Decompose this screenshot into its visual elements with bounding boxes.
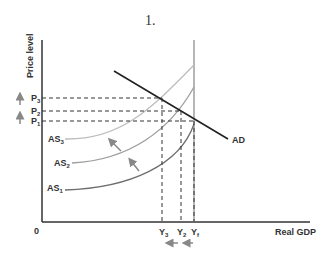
as3-curve — [65, 65, 194, 139]
origin-label: 0 — [34, 226, 39, 236]
as3-label: AS3 — [48, 134, 65, 145]
figure-number: 1. — [145, 13, 156, 28]
as1-curve — [65, 124, 194, 190]
as2-label: AS2 — [54, 158, 71, 169]
ad-line — [114, 71, 228, 139]
output-label-y2: Y2 — [177, 227, 187, 238]
y-axis-label: Price level — [25, 33, 35, 78]
as-ad-diagram: 1. Price level 0 Real GDP AD P3 P2 P1 Y3… — [0, 0, 331, 257]
as1-label: AS1 — [47, 183, 64, 194]
output-label-yf: Yf — [191, 227, 200, 238]
x-axis-label: Real GDP — [275, 227, 316, 237]
shift-arrow-icon — [111, 141, 121, 151]
shift-arrow-icon — [131, 161, 139, 171]
output-label-y3: Y3 — [159, 227, 169, 238]
price-label-p3: P3 — [31, 93, 41, 104]
price-label-p1: P1 — [31, 116, 41, 127]
ad-label: AD — [232, 135, 245, 145]
